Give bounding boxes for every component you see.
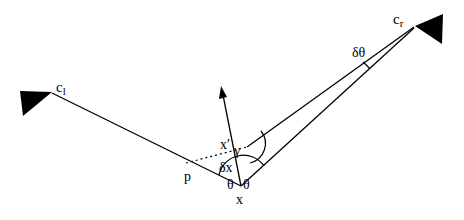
label-cr: cr [393, 11, 404, 29]
label-delta-theta: δθ [352, 45, 366, 60]
arrowhead-icon [219, 86, 227, 99]
label-theta-right: θ [243, 177, 250, 192]
label-p: p [184, 169, 191, 184]
label-x-prime: x′ [220, 137, 230, 152]
label-cl: cl [56, 79, 66, 97]
camera-left-icon [20, 91, 52, 116]
ray-cr-to-xprime [247, 27, 414, 147]
ray-cr-to-x [241, 28, 414, 186]
camera-right-icon [415, 14, 443, 44]
ray-cl-to-x [52, 93, 241, 186]
label-x: x [236, 192, 243, 207]
label-theta-left: θ [227, 177, 234, 192]
label-gamma: γ [233, 143, 240, 158]
stereo-geometry-diagram: cl cr δθ x′ γ δx p θ θ x [0, 0, 464, 220]
angle-arc-delta-theta [363, 62, 370, 69]
diagram-svg: cl cr δθ x′ γ δx p θ θ x [0, 0, 464, 220]
label-delta-x: δx [219, 160, 233, 175]
